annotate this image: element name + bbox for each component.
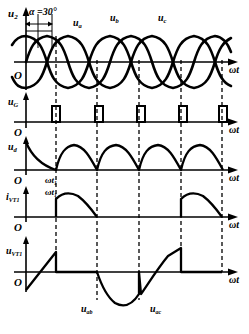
- panel5-y-label: uVT1: [6, 245, 22, 257]
- panel1-y-label: u2: [8, 7, 18, 21]
- panel1-origin: O: [14, 69, 22, 81]
- curve-label-ub: ub: [110, 12, 120, 24]
- segment-label-uab: uab: [81, 303, 93, 315]
- segment-label-uac: uac: [150, 303, 162, 315]
- panel-thyristor-current: iVT1 O ωt₁ ωt: [6, 186, 240, 233]
- segment-label-uab-sub: ab: [87, 309, 93, 315]
- alpha-annotation: α =30°: [29, 6, 57, 17]
- panel-source-voltages: u2 α =30° ua ub uc O ωt: [8, 6, 240, 90]
- commutation-guides: [56, 36, 222, 300]
- curve-label-ub-sub: b: [116, 17, 120, 24]
- panel4-time-marker: ωt₁: [45, 187, 57, 197]
- waveform-figure: u2 α =30° ua ub uc O ωt uG O ωt ud O ωt₁…: [0, 0, 249, 334]
- gate-pulse-5: [219, 106, 227, 122]
- panel3-origin: O: [14, 174, 22, 186]
- panel5-origin: O: [14, 276, 22, 288]
- panel2-axis-label: ωt: [229, 124, 240, 135]
- panel3-y-label-sub: d: [14, 146, 18, 153]
- panel3-time-marker: ωt₁: [45, 175, 57, 185]
- panel2-y-arrow: [23, 92, 29, 100]
- panel1-y-label-sub: 2: [13, 13, 18, 21]
- panel4-y-label-sub: VT1: [9, 197, 20, 203]
- gate-pulse-4: [179, 106, 187, 122]
- curve-label-ua: ua: [73, 17, 83, 29]
- panel-gate-pulses: uG O ωt: [8, 92, 240, 138]
- panel2-origin: O: [14, 126, 22, 138]
- panel-thyristor-voltage: uVT1 O ωt uab uac: [6, 236, 240, 315]
- curve-ivt1-pulse-1: [56, 194, 97, 217]
- panel5-y-label-sub: VT1: [12, 251, 23, 257]
- panel2-y-label-sub: G: [14, 101, 19, 108]
- panel4-y-label: iVT1: [6, 191, 19, 203]
- panel4-axis-label: ωt: [229, 219, 240, 230]
- segment-label-uac-sub: ac: [156, 309, 162, 315]
- gate-pulse-2: [95, 106, 103, 122]
- panel4-y-arrow: [23, 186, 29, 194]
- panel3-axis-label: ωt: [229, 172, 240, 183]
- panel4-origin: O: [14, 221, 22, 233]
- curve-label-ua-sub: a: [79, 22, 83, 29]
- curve-label-uc-sub: c: [164, 17, 167, 24]
- curve-label-uc: uc: [158, 12, 167, 24]
- panel-output-voltage: ud O ωt₁ ωt: [8, 136, 240, 186]
- waveform-svg: u2 α =30° ua ub uc O ωt uG O ωt ud O ωt₁…: [0, 0, 249, 334]
- curve-ivt1-pulse-2: [181, 194, 222, 217]
- panel5-y-arrow: [23, 236, 29, 244]
- gate-pulse-3: [137, 106, 145, 122]
- panel1-axis-label: ωt: [229, 64, 240, 75]
- panel5-axis-label: ωt: [229, 274, 240, 285]
- panel2-y-label: uG: [8, 96, 19, 108]
- panel3-y-label: ud: [8, 141, 18, 153]
